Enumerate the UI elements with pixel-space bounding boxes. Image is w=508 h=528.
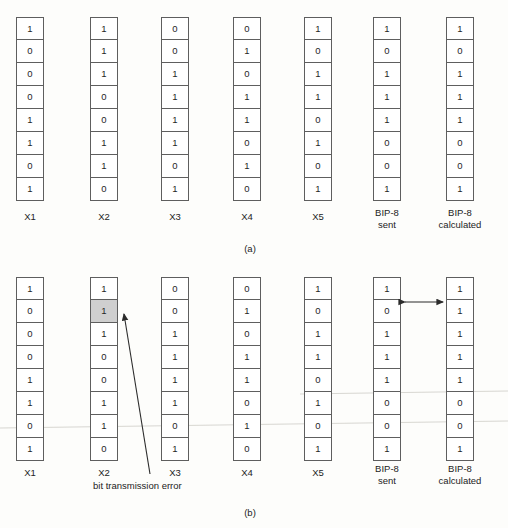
bit-cell: 0 xyxy=(446,392,474,415)
bit-cell: 1 xyxy=(446,300,474,323)
bit-cell: 1 xyxy=(304,438,332,461)
bit-cell: 1 xyxy=(446,369,474,392)
bit-cell: 1 xyxy=(304,346,332,369)
panel-a: 1 0 0 0 1 1 0 1 X1 1 1 1 0 0 1 1 0 X2 xyxy=(0,0,508,264)
bit-cell: 0 xyxy=(304,415,332,438)
bit-column-x3: 0 0 1 1 1 1 0 1 xyxy=(161,277,189,461)
bit-cell: 0 xyxy=(233,438,261,461)
bit-cell: 0 xyxy=(446,415,474,438)
bit-cell: 1 xyxy=(90,132,118,155)
bit-cell: 1 xyxy=(161,323,189,346)
bit-cell: 1 xyxy=(16,132,44,155)
bit-cell: 0 xyxy=(304,155,332,178)
bit-cell: 1 xyxy=(90,415,118,438)
bit-cell: 1 xyxy=(233,369,261,392)
bit-cell: 1 xyxy=(16,369,44,392)
bit-column-x4: 0 1 0 1 1 0 1 0 xyxy=(233,277,261,461)
bit-cell: 1 xyxy=(90,155,118,178)
bit-column-x2: 1 1 1 0 0 1 1 0 xyxy=(90,277,118,461)
figure-canvas: 1 0 0 0 1 1 0 1 X1 1 1 1 0 0 1 1 0 X2 xyxy=(0,0,508,528)
bit-cell: 0 xyxy=(90,178,118,201)
bit-cell: 1 xyxy=(304,277,332,300)
bit-cell: 1 xyxy=(16,438,44,461)
bit-cell: 1 xyxy=(304,392,332,415)
bit-column-x5: 1 0 1 1 0 1 0 1 xyxy=(304,17,332,201)
bit-cell: 0 xyxy=(373,392,401,415)
bit-cell: 0 xyxy=(161,277,189,300)
bit-cell: 1 xyxy=(373,109,401,132)
bit-cell: 1 xyxy=(161,369,189,392)
bit-cell: 1 xyxy=(373,346,401,369)
column-label-line1: BIP-8 xyxy=(417,207,503,219)
bit-cell: 1 xyxy=(233,300,261,323)
bit-cell: 1 xyxy=(304,178,332,201)
bit-column-bip8-calculated: 1 0 1 1 1 0 0 1 xyxy=(446,17,474,201)
bit-column-bip8-sent: 1 0 1 1 1 0 0 1 xyxy=(373,277,401,461)
bit-cell: 0 xyxy=(16,415,44,438)
bit-cell: 1 xyxy=(161,346,189,369)
bit-cell: 1 xyxy=(373,277,401,300)
bit-cell-error: 1 xyxy=(90,300,118,323)
bit-cell: 1 xyxy=(446,86,474,109)
bit-cell: 1 xyxy=(233,109,261,132)
bit-cell: 1 xyxy=(373,178,401,201)
bit-cell: 0 xyxy=(90,369,118,392)
bit-cell: 0 xyxy=(446,155,474,178)
bit-cell: 1 xyxy=(446,323,474,346)
bit-cell: 0 xyxy=(373,415,401,438)
bit-cell: 1 xyxy=(304,323,332,346)
bit-column-x1: 1 0 0 0 1 1 0 1 xyxy=(16,277,44,461)
bit-cell: 1 xyxy=(446,178,474,201)
bit-cell: 1 xyxy=(373,369,401,392)
panel-caption-b: (b) xyxy=(220,507,280,518)
bit-cell: 0 xyxy=(16,300,44,323)
bit-cell: 1 xyxy=(304,17,332,40)
bit-column-x1: 1 0 0 0 1 1 0 1 xyxy=(16,17,44,201)
bit-cell: 0 xyxy=(90,109,118,132)
column-label-bip8-calculated: BIP-8 calculated xyxy=(417,463,503,487)
bit-cell: 0 xyxy=(304,40,332,63)
bit-cell: 0 xyxy=(90,346,118,369)
bit-cell: 1 xyxy=(233,155,261,178)
bit-cell: 1 xyxy=(304,86,332,109)
bit-cell: 0 xyxy=(373,300,401,323)
bit-cell: 0 xyxy=(233,132,261,155)
bit-cell: 1 xyxy=(16,277,44,300)
bit-cell: 0 xyxy=(161,17,189,40)
bit-cell: 1 xyxy=(233,86,261,109)
bit-cell: 0 xyxy=(90,438,118,461)
bit-cell: 0 xyxy=(90,86,118,109)
bit-cell: 1 xyxy=(233,40,261,63)
column-label-line1: BIP-8 xyxy=(417,463,503,475)
bit-cell: 0 xyxy=(16,63,44,86)
bit-cell: 1 xyxy=(90,277,118,300)
bit-cell: 1 xyxy=(233,415,261,438)
bit-transmission-error-label: bit transmission error xyxy=(93,480,182,491)
bit-cell: 0 xyxy=(373,132,401,155)
bit-cell: 1 xyxy=(90,40,118,63)
bit-cell: 1 xyxy=(90,63,118,86)
bit-cell: 0 xyxy=(233,323,261,346)
bit-column-x2: 1 1 1 0 0 1 1 0 xyxy=(90,17,118,201)
bit-cell: 1 xyxy=(161,178,189,201)
bit-column-x3: 0 0 1 1 1 1 0 1 xyxy=(161,17,189,201)
bit-cell: 0 xyxy=(161,155,189,178)
bit-cell: 0 xyxy=(304,369,332,392)
bit-cell: 0 xyxy=(233,277,261,300)
bit-cell: 0 xyxy=(446,40,474,63)
bit-cell: 0 xyxy=(16,40,44,63)
bit-cell: 1 xyxy=(446,438,474,461)
bit-cell: 0 xyxy=(161,300,189,323)
bit-cell: 0 xyxy=(233,392,261,415)
bit-cell: 1 xyxy=(304,63,332,86)
bit-cell: 0 xyxy=(161,415,189,438)
bit-cell: 0 xyxy=(16,86,44,109)
bit-cell: 0 xyxy=(16,323,44,346)
bit-cell: 1 xyxy=(161,63,189,86)
bit-cell: 0 xyxy=(16,346,44,369)
bit-cell: 0 xyxy=(233,178,261,201)
bit-column-x5: 1 0 1 1 0 1 0 1 xyxy=(304,277,332,461)
bit-cell: 1 xyxy=(90,17,118,40)
bit-cell: 0 xyxy=(373,155,401,178)
bit-column-x4: 0 1 0 1 1 0 1 0 xyxy=(233,17,261,201)
